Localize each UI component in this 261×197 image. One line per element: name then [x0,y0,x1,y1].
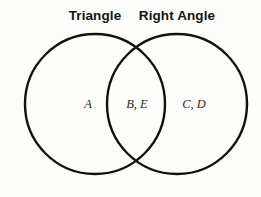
region-label-right-only: C, D [182,97,206,112]
venn-diagram: Triangle Right Angle A B, E C, D [0,0,261,197]
region-label-left-only: A [84,97,92,112]
region-label-intersection: B, E [126,97,148,112]
set-title-right-angle: Right Angle [139,8,215,23]
set-title-triangle: Triangle [69,8,122,23]
